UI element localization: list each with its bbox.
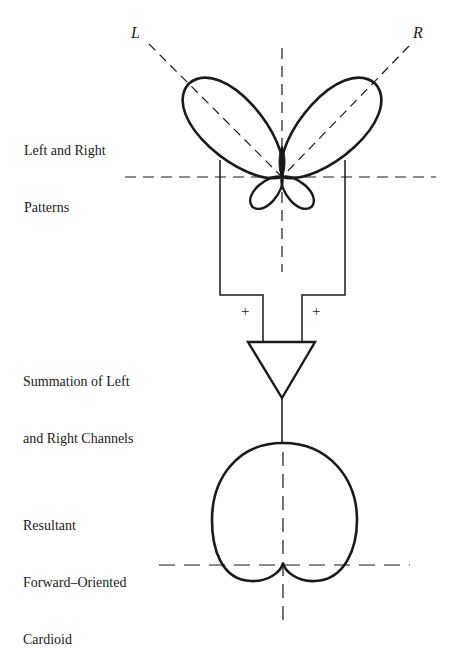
left-axis-label: L: [130, 24, 140, 41]
right-axis-label: R: [412, 24, 423, 41]
left-axis-diagonal: [149, 44, 282, 177]
resultant-cardioid: [212, 443, 357, 581]
left-input-plus-sign: +: [241, 303, 249, 319]
right-input-plus-sign: +: [312, 303, 320, 319]
right-axis-diagonal: [282, 46, 409, 177]
summing-amplifier-icon: [248, 342, 315, 398]
